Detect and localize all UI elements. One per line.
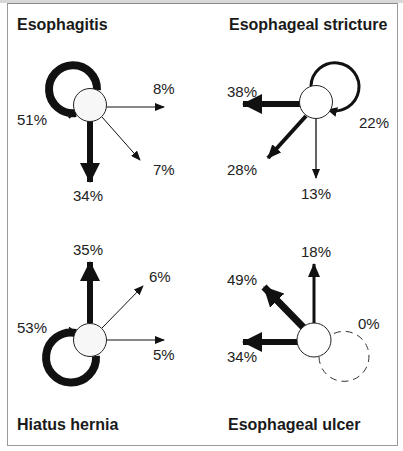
label-diagonal: 6%: [149, 268, 171, 285]
label-down: 13%: [301, 185, 331, 202]
state-node: [300, 86, 333, 119]
label-diagonal: 7%: [153, 161, 175, 178]
label-diagonal: 49%: [227, 271, 257, 288]
state-node: [297, 323, 331, 357]
transition-diagram: Esophagitis 51% 8% 7% 34% Esophageal str…: [0, 0, 403, 451]
label-left: 38%: [227, 83, 257, 100]
panel-title: Esophageal ulcer: [228, 416, 361, 433]
self-loop-label: 22%: [359, 114, 389, 131]
panel-hiatus-hernia: 35% 6% 53% 5% Hiatus hernia: [17, 241, 175, 433]
state-node: [74, 89, 107, 122]
arrow-diagonal: [268, 116, 306, 158]
label-up: 35%: [73, 241, 103, 258]
panel-esophageal-ulcer: 18% 49% 0% 34% Esophageal ulcer: [227, 243, 380, 433]
panel-esophagitis: Esophagitis 51% 8% 7% 34%: [17, 16, 175, 204]
label-down: 34%: [73, 187, 103, 204]
arrow-diagonal: [102, 117, 140, 160]
self-loop-label: 51%: [17, 111, 47, 128]
label-up: 18%: [301, 243, 331, 260]
label-right: 8%: [153, 80, 175, 97]
self-loop-label: 0%: [358, 315, 380, 332]
arrow-diagonal: [102, 286, 143, 328]
state-node: [74, 324, 107, 357]
arrow-diagonal: [264, 287, 304, 328]
panel-esophageal-stricture: Esophageal stricture 38% 22% 28% 13%: [227, 16, 389, 202]
self-loop-label: 53%: [17, 319, 47, 336]
label-left: 34%: [227, 348, 257, 365]
panel-title: Esophagitis: [17, 16, 108, 33]
label-diagonal: 28%: [227, 161, 257, 178]
panel-title: Hiatus hernia: [17, 416, 118, 433]
label-right: 5%: [153, 346, 175, 363]
panel-title: Esophageal stricture: [229, 16, 387, 33]
